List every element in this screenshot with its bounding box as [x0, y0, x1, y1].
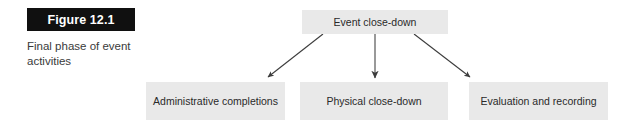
- flow-node-physical-close-down: Physical close-down: [300, 82, 448, 120]
- figure-caption: Final phase of event activities: [27, 39, 149, 69]
- figure-number-label: Figure 12.1: [27, 8, 135, 31]
- flow-node-evaluation-and-recording: Evaluation and recording: [469, 82, 608, 120]
- arrow-to-administrative-completions: [268, 34, 323, 77]
- flow-node-administrative-completions: Administrative completions: [146, 82, 285, 120]
- figure-container: Figure 12.1 Final phase of event activit…: [0, 0, 628, 128]
- flow-node-event-close-down: Event close-down: [302, 10, 448, 34]
- arrow-to-evaluation-and-recording: [414, 34, 470, 77]
